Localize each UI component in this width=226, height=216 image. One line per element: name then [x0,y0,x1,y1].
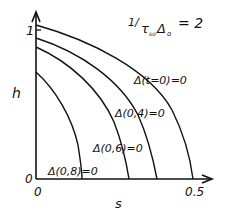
annotation-value: = 2 [178,15,203,31]
x-tick-label-0: 0 [34,185,42,199]
curve-label-t0: Δ(t=0)=0 [133,74,187,87]
y-tick-label-0: 0 [25,172,33,186]
parameter-annotation: 1/ τ so Δ o = 2 [128,15,203,38]
annotation-tau-sub: so [149,30,156,37]
curve-label-08: Δ(0,8)=0 [47,165,98,178]
curve-label-06: Δ(0,6)=0 [92,142,143,155]
annotation-tau: τ [141,21,149,36]
curve-label-04: Δ(0,4)=0 [114,107,165,120]
annotation-delta-sub: o [167,30,171,38]
annotation-prefix: 1/ [128,16,140,29]
x-axis-label: s [115,196,122,211]
curve-08 [36,72,82,179]
chart: 1 0 0 0.5 h s 1/ τ so Δ o = 2 Δ(t=0)=0 Δ… [0,0,226,216]
x-tick-label-05: 0.5 [185,185,204,199]
annotation-delta: Δ [156,21,166,36]
y-axis-label: h [12,85,21,101]
y-tick-label-1: 1 [26,23,34,38]
curve-t0 [36,25,193,179]
